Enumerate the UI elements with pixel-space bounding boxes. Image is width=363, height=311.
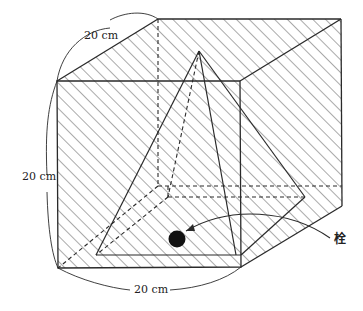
width-label: 20 cm bbox=[134, 283, 169, 296]
depth-label: 20 cm bbox=[84, 29, 119, 42]
height-label: 20 cm bbox=[22, 170, 57, 183]
cube-pyramid-diagram: 20 cm 20 cm 20 cm 栓 bbox=[0, 0, 363, 311]
plug-icon bbox=[169, 231, 186, 248]
plug-label: 栓 bbox=[334, 231, 346, 246]
